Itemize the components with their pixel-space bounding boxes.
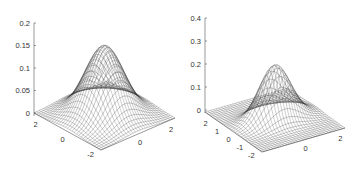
y-tick-label: 2 <box>204 119 208 128</box>
z-tick-label: 0.4 <box>191 14 201 23</box>
y-tick-label: 0 <box>226 135 230 144</box>
y-tick-label: 2 <box>34 120 38 129</box>
y-tick-label: 1 <box>215 127 219 136</box>
z-tick-label: 0.2 <box>20 19 30 28</box>
y-tick-label: -1 <box>237 143 244 152</box>
surface-plot-left: 00.050.10.150.220-202 <box>15 19 175 160</box>
y-tick-label: 0 <box>60 135 64 144</box>
y-tick-label: -2 <box>248 151 255 160</box>
z-tick-label: 0.2 <box>191 60 201 69</box>
z-tick-label: 0.1 <box>191 83 201 92</box>
z-tick-label: 0.15 <box>15 41 30 50</box>
x-tick-label: 0 <box>303 144 307 153</box>
z-tick-label: 0.1 <box>20 64 30 73</box>
x-tick-label: 2 <box>169 125 173 134</box>
z-tick-label: 0 <box>197 106 201 115</box>
x-tick-label: 2 <box>338 134 342 143</box>
z-tick-label: 0 <box>26 109 30 118</box>
z-tick-label: 0.3 <box>191 37 201 46</box>
figure: 00.050.10.150.220-202 00.10.20.30.4210-1… <box>0 0 363 170</box>
z-tick-label: 0.05 <box>15 86 30 95</box>
x-tick-label: 0 <box>138 138 142 147</box>
surface-plot-right: 00.10.20.30.4210-1-202 <box>191 14 345 161</box>
y-tick-label: -2 <box>87 150 94 159</box>
